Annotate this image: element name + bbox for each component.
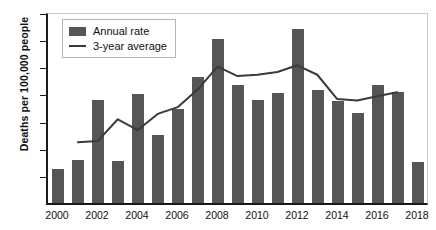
chart-legend: Annual rate 3-year average: [62, 19, 176, 58]
three-year-average-line: [78, 65, 397, 142]
bar-swatch-icon: [69, 27, 86, 36]
legend-item-annual-rate: Annual rate: [69, 24, 167, 38]
chart-container: Deaths per 100,000 people 14121086420 20…: [0, 0, 436, 230]
x-tick-label-2006: 2006: [157, 209, 197, 221]
x-tick-label-2010: 2010: [237, 209, 277, 221]
legend-label-annual-rate: Annual rate: [93, 25, 149, 37]
x-tick-label-2014: 2014: [317, 209, 357, 221]
x-tick-label-2004: 2004: [117, 209, 157, 221]
x-tick-label-2002: 2002: [77, 209, 117, 221]
x-tick-label-2000: 2000: [37, 209, 77, 221]
legend-item-three-year-average: 3-year average: [69, 39, 167, 53]
legend-label-three-year-average: 3-year average: [93, 40, 167, 52]
x-tick-label-2012: 2012: [277, 209, 317, 221]
x-tick-label-2016: 2016: [357, 209, 397, 221]
y-axis-title: Deaths per 100,000 people: [18, 0, 30, 174]
x-tick-label-2018: 2018: [397, 209, 436, 221]
line-swatch-icon: [69, 45, 86, 47]
x-tick-label-2008: 2008: [197, 209, 237, 221]
